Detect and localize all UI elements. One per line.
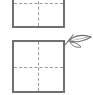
square-figure-bottom bbox=[12, 40, 65, 93]
horizontal-dashed-guide bbox=[14, 67, 63, 68]
square-figure-top bbox=[12, 0, 65, 28]
leaf-sprig-icon bbox=[62, 32, 93, 52]
horizontal-dashed-guide bbox=[14, 3, 63, 4]
